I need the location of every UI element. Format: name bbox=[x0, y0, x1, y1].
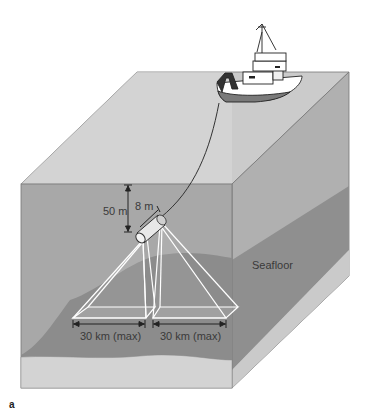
depth-label: 50 m bbox=[103, 205, 127, 217]
water-top-highlight bbox=[21, 72, 232, 184]
swath-label-left: 30 km (max) bbox=[80, 330, 141, 342]
survey-ship-icon bbox=[217, 24, 302, 102]
length-label: 8 m bbox=[135, 200, 153, 212]
sediment-front bbox=[21, 355, 232, 388]
side-scan-sonar-diagram: 50 m 8 m 30 km (max) 30 km (max) Seafloo… bbox=[0, 0, 367, 414]
panel-label: a bbox=[9, 399, 15, 410]
seafloor-label: Seafloor bbox=[252, 259, 293, 271]
swath-label-right: 30 km (max) bbox=[160, 330, 221, 342]
